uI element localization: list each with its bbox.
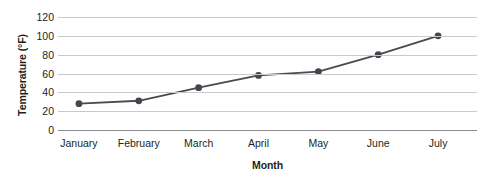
gridline-20 (58, 111, 477, 112)
y-axis-tick-labels: 020406080100120 (24, 0, 54, 183)
y-tick-label: 20 (24, 106, 54, 116)
gridline-40 (58, 92, 477, 93)
y-tick-label: 80 (24, 50, 54, 60)
x-axis-title: Month (58, 159, 477, 171)
y-tick-label: 0 (24, 125, 54, 135)
y-tick-label: 40 (24, 87, 54, 97)
gridline-0 (58, 130, 477, 131)
series-line (79, 36, 438, 104)
data-point-marker: January: 28 (76, 100, 83, 107)
gridline-120 (58, 17, 477, 18)
temperature-line-chart: Temperature (°F) 020406080100120 January… (0, 0, 485, 183)
x-axis-tick-labels: JanuaryFebruaryMarchAprilMayJuneJuly (58, 136, 477, 152)
gridline-80 (58, 55, 477, 56)
gridline-60 (58, 74, 477, 75)
data-point-marker: March: 45 (195, 84, 202, 91)
gridline-100 (58, 36, 477, 37)
y-tick-label: 60 (24, 69, 54, 79)
x-tick-label: July (393, 136, 483, 150)
y-tick-label: 100 (24, 31, 54, 41)
y-tick-label: 120 (24, 12, 54, 22)
plot-area: January: 28February: 31March: 45April: 5… (58, 17, 477, 130)
data-point-marker: February: 31 (135, 97, 142, 104)
